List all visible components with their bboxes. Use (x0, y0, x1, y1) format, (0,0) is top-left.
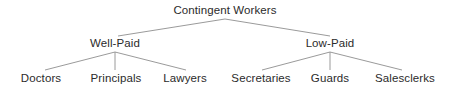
node-leaf-principals: Principals (91, 73, 142, 85)
edge-well-paid-to-doctors (45, 52, 115, 70)
node-leaf-doctors: Doctors (21, 73, 61, 85)
edge-well-paid-to-lawyers (115, 52, 186, 70)
node-leaf-secretaries: Secretaries (231, 73, 290, 85)
edge-root-to-low-paid (225, 19, 330, 36)
edge-low-paid-to-secretaries (262, 52, 330, 70)
node-branch-well-paid: Well-Paid (90, 38, 140, 50)
node-leaf-salesclerks: Salesclerks (375, 73, 435, 85)
node-leaf-lawyers: Lawyers (163, 73, 207, 85)
node-leaf-guards: Guards (311, 73, 349, 85)
edge-root-to-well-paid (118, 19, 225, 36)
edge-low-paid-to-salesclerks (330, 52, 402, 70)
hierarchy-diagram: Contingent Workers Well-Paid Low-Paid Do… (0, 0, 449, 95)
node-branch-low-paid: Low-Paid (306, 38, 355, 50)
node-root-contingent-workers: Contingent Workers (173, 5, 276, 17)
